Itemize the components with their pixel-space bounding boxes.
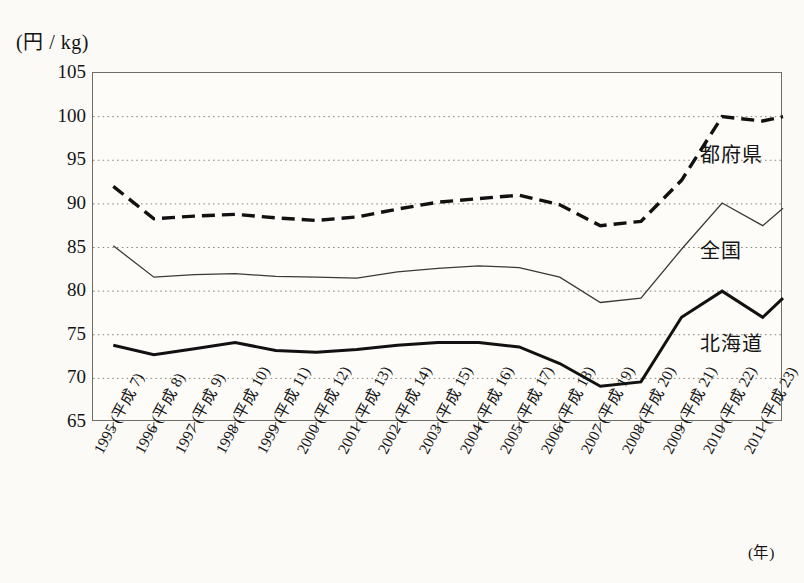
y-tick-105: 105: [36, 61, 86, 83]
y-tick-65: 65: [36, 410, 86, 432]
x-axis-unit-label: (年): [748, 540, 774, 562]
series-label-2: 北海道: [700, 328, 763, 357]
y-axis-tick-labels: 10510095908580757065: [28, 0, 86, 583]
plot-svg: [92, 72, 784, 435]
y-tick-75: 75: [36, 323, 86, 345]
y-tick-85: 85: [36, 236, 86, 258]
y-tick-90: 90: [36, 192, 86, 214]
y-tick-80: 80: [36, 279, 86, 301]
series-line-0: [113, 117, 783, 226]
chart-canvas: (円 / kg) 10510095908580757065 1995 (平成 7…: [0, 0, 804, 583]
series-label-0: 都府県: [700, 139, 763, 168]
y-tick-70: 70: [36, 366, 86, 388]
series-label-1: 全国: [700, 235, 742, 264]
series-line-1: [113, 203, 783, 302]
y-tick-95: 95: [36, 148, 86, 170]
plot-area: [92, 72, 782, 421]
y-tick-100: 100: [36, 105, 86, 127]
